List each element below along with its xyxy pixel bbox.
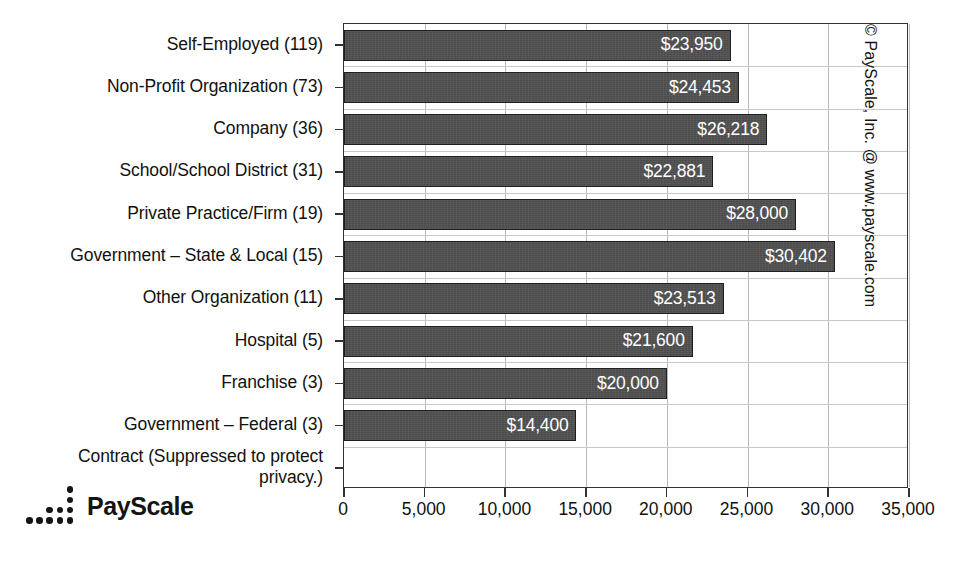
bar-value-label: $26,218 <box>697 121 766 139</box>
category-label-row: Hospital (5) <box>0 319 332 361</box>
payscale-logo: PayScale <box>26 479 194 523</box>
gridline-horizontal <box>344 404 907 405</box>
value-tick-label: 20,000 <box>639 499 693 519</box>
category-tick-mark <box>335 467 344 469</box>
bar: $22,881 <box>344 156 713 187</box>
category-label: Hospital (5) <box>235 330 323 351</box>
value-tick-label: 15,000 <box>558 499 612 519</box>
bar-chart: Self-Employed (119)Non-Profit Organizati… <box>0 0 958 563</box>
category-label-row: Government – Federal (3) <box>0 403 332 445</box>
logo-dot <box>36 517 43 524</box>
category-tick-mark <box>335 298 344 300</box>
value-tick-mark <box>827 488 829 497</box>
category-label-row: Non-Profit Organization (73) <box>0 65 332 107</box>
bar-value-label: $30,402 <box>765 248 834 266</box>
gridline-horizontal <box>344 235 907 236</box>
category-axis-labels: Self-Employed (119)Non-Profit Organizati… <box>0 23 332 488</box>
gridline-horizontal <box>344 193 907 194</box>
gridline-horizontal <box>344 362 907 363</box>
bar-value-label: $21,600 <box>623 332 692 350</box>
bar-value-label: $20,000 <box>597 375 666 393</box>
logo-dot <box>26 517 33 524</box>
category-label: Self-Employed (119) <box>167 34 323 55</box>
gridline-horizontal <box>344 109 907 110</box>
category-tick-mark <box>335 44 344 46</box>
value-tick-mark <box>424 488 426 497</box>
value-tick-mark <box>666 488 668 497</box>
category-label: School/School District (31) <box>120 160 324 181</box>
payscale-dots-logo-icon <box>26 481 78 523</box>
bar: $23,513 <box>344 283 724 314</box>
logo-dot <box>67 517 74 524</box>
category-label: Government – State & Local (15) <box>70 245 323 266</box>
category-label-row: Self-Employed (119) <box>0 23 332 65</box>
value-tick-mark <box>504 488 506 497</box>
value-tick-mark <box>908 488 910 497</box>
logo-dot <box>57 507 64 514</box>
bar-value-label: $14,400 <box>507 417 576 435</box>
category-label: Private Practice/Firm (19) <box>127 203 323 224</box>
category-label-row: Private Practice/Firm (19) <box>0 192 332 234</box>
bar-value-label: $23,950 <box>661 36 730 54</box>
gridline-horizontal <box>344 320 907 321</box>
value-tick-mark <box>343 488 345 497</box>
bar-value-label: $24,453 <box>669 79 738 97</box>
logo-dot <box>67 497 74 504</box>
bar: $23,950 <box>344 30 731 61</box>
category-label-row: Company (36) <box>0 108 332 150</box>
bar: $20,000 <box>344 368 667 399</box>
logo-dot <box>46 507 53 514</box>
logo-dot <box>46 517 53 524</box>
bar: $21,600 <box>344 326 693 357</box>
category-label: Non-Profit Organization (73) <box>107 76 323 97</box>
bar: $14,400 <box>344 410 576 441</box>
value-tick-label: 5,000 <box>402 499 446 519</box>
value-tick-label: 25,000 <box>720 499 774 519</box>
category-tick-mark <box>335 340 344 342</box>
value-tick-label: 10,000 <box>478 499 532 519</box>
gridline-vertical <box>909 24 910 487</box>
gridline-horizontal <box>344 278 907 279</box>
category-tick-mark <box>335 171 344 173</box>
copyright-text: © PayScale, Inc. @ www.payscale.com <box>861 24 880 307</box>
category-label: Franchise (3) <box>221 372 323 393</box>
category-tick-mark <box>335 87 344 89</box>
bar-value-label: $28,000 <box>726 205 795 223</box>
value-tick-label: 30,000 <box>801 499 855 519</box>
gridline-horizontal <box>344 447 907 448</box>
category-label: Government – Federal (3) <box>124 414 323 435</box>
logo-dot <box>57 517 64 524</box>
value-axis: 05,00010,00015,00020,00025,00030,00035,0… <box>343 488 908 528</box>
category-tick-mark <box>335 425 344 427</box>
payscale-logo-text: PayScale <box>87 494 194 519</box>
bar: $28,000 <box>344 199 796 230</box>
logo-dot <box>67 486 74 493</box>
value-tick-mark <box>747 488 749 497</box>
category-label: Company (36) <box>213 118 323 139</box>
category-label-row: Government – State & Local (15) <box>0 234 332 276</box>
category-tick-mark <box>335 256 344 258</box>
category-tick-mark <box>335 383 344 385</box>
value-tick-label: 35,000 <box>881 499 935 519</box>
bar: $26,218 <box>344 114 767 145</box>
category-label-row: Franchise (3) <box>0 361 332 403</box>
bar: $24,453 <box>344 72 739 103</box>
value-tick-label: 0 <box>338 499 348 519</box>
category-label-row: School/School District (31) <box>0 150 332 192</box>
category-tick-mark <box>335 129 344 131</box>
bar-value-label: $23,513 <box>654 290 723 308</box>
category-label: Other Organization (11) <box>143 287 323 308</box>
bar-value-label: $22,881 <box>644 163 713 181</box>
copyright-notice: © PayScale, Inc. @ www.payscale.com <box>861 24 883 464</box>
logo-dot <box>67 507 74 514</box>
value-tick-mark <box>585 488 587 497</box>
category-tick-mark <box>335 213 344 215</box>
bar: $30,402 <box>344 241 835 272</box>
category-label-row: Other Organization (11) <box>0 277 332 319</box>
gridline-horizontal <box>344 151 907 152</box>
plot-area: $23,950$24,453$26,218$22,881$28,000$30,4… <box>343 23 908 488</box>
gridline-horizontal <box>344 66 907 67</box>
